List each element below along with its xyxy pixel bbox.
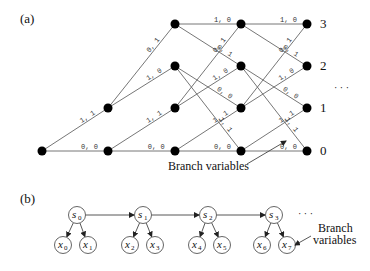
trellis-edge-label: 1, 1 xyxy=(78,109,96,125)
svg-text:x: x xyxy=(191,238,197,250)
trellis-edge-label: 0, 0 xyxy=(215,85,233,101)
trellis-node xyxy=(237,20,246,29)
bayes-net-arrow xyxy=(277,223,283,237)
bayes-net-nodes: s0s1s2s3x0x1x2x3x4x5x6x7 xyxy=(55,207,296,254)
branch-variables-annotation-a: Branch variables xyxy=(168,159,249,173)
branch-variables-annotation-b-line2: variables xyxy=(313,233,357,247)
trellis-node xyxy=(38,147,47,156)
trellis-edge-label: 1, 0 xyxy=(145,67,163,83)
trellis-edge-label: 1, 1 xyxy=(283,116,300,134)
trellis-edge-label: 0, 1 xyxy=(281,43,299,59)
trellis-edge-label: 0, 0 xyxy=(81,143,98,151)
bayes-net-arrow xyxy=(134,223,140,237)
bayes-net-arrow xyxy=(200,223,205,237)
trellis-edge-label: 0, 0 xyxy=(214,143,231,151)
svg-text:0: 0 xyxy=(64,244,68,252)
trellis-node xyxy=(171,62,180,71)
trellis-node xyxy=(237,104,246,113)
trellis-edge xyxy=(175,66,241,151)
branch-node-x0: x0 xyxy=(55,237,72,254)
bayes-net-ellipsis: · · · xyxy=(298,208,313,219)
branch-node-x4: x4 xyxy=(189,237,206,254)
svg-text:x: x xyxy=(149,238,155,250)
annotation-arrow-b xyxy=(295,236,311,245)
state-label-1: 1 xyxy=(320,100,327,115)
svg-text:4: 4 xyxy=(198,244,202,252)
bayes-net-arrow xyxy=(80,223,85,237)
trellis-edge-label: 1, 0 xyxy=(214,16,231,24)
panel-a-label: (a) xyxy=(20,11,34,26)
svg-text:3: 3 xyxy=(275,214,279,222)
trellis-edge xyxy=(175,24,241,66)
trellis-edge-label: 1, 0 xyxy=(277,66,295,82)
branch-node-x7: x7 xyxy=(279,237,296,254)
trellis-edge-label: 1, 0 xyxy=(280,16,297,24)
svg-text:x: x xyxy=(57,238,63,250)
trellis-edge-label: 0, 1 xyxy=(145,36,162,54)
state-label-2: 2 xyxy=(320,58,327,73)
svg-text:1: 1 xyxy=(144,214,148,222)
trellis-edge xyxy=(241,24,307,66)
bayes-net-arrow xyxy=(146,223,152,237)
branch-node-x2: x2 xyxy=(122,237,139,254)
bayes-net-arrow xyxy=(265,223,271,237)
state-label-3: 3 xyxy=(320,16,327,31)
svg-text:2: 2 xyxy=(131,244,135,252)
svg-text:3: 3 xyxy=(156,244,160,252)
bayes-net-arrow xyxy=(67,223,74,237)
trellis-node xyxy=(237,62,246,71)
trellis-edge-label: 0, 0 xyxy=(280,143,297,151)
svg-text:s: s xyxy=(72,208,76,220)
svg-text:1: 1 xyxy=(89,244,93,252)
trellis-node xyxy=(303,20,312,29)
trellis-edge xyxy=(108,24,175,108)
trellis-node xyxy=(303,62,312,71)
branch-node-x3: x3 xyxy=(147,237,164,254)
svg-text:2: 2 xyxy=(209,214,213,222)
trellis-node xyxy=(303,147,312,156)
trellis-node xyxy=(104,104,113,113)
panel-b-label: (b) xyxy=(20,191,35,206)
bayes-net-edges xyxy=(67,215,284,237)
state-node-s0: s0 xyxy=(69,207,86,224)
trellis-node xyxy=(104,147,113,156)
svg-text:s: s xyxy=(269,208,273,220)
svg-text:x: x xyxy=(216,238,222,250)
svg-text:x: x xyxy=(124,238,130,250)
trellis-edge-label: 1, 0 xyxy=(211,66,229,82)
svg-text:5: 5 xyxy=(223,244,227,252)
trellis-edge-label: 1, 1 xyxy=(145,109,163,125)
trellis-edge-label: 0, 0 xyxy=(281,85,299,101)
svg-text:x: x xyxy=(82,238,88,250)
branch-node-x1: x1 xyxy=(80,237,97,254)
trellis-node xyxy=(171,20,180,29)
trellis-nodes xyxy=(38,20,312,156)
annotation-arrow-a xyxy=(247,141,286,164)
trellis-edges xyxy=(42,24,307,151)
trellis-edge xyxy=(108,66,175,108)
svg-text:7: 7 xyxy=(288,244,292,252)
svg-text:x: x xyxy=(281,238,287,250)
state-label-0: 0 xyxy=(320,143,327,158)
svg-text:x: x xyxy=(256,238,262,250)
state-node-s2: s2 xyxy=(200,207,217,224)
svg-text:s: s xyxy=(203,208,207,220)
trellis-node xyxy=(237,147,246,156)
trellis-edge xyxy=(241,66,307,151)
trellis-edge xyxy=(42,108,108,151)
bayes-net-arrow xyxy=(212,223,219,237)
trellis-ellipsis: · · · xyxy=(334,82,349,93)
trellis-edge-label: 0, 0 xyxy=(148,143,165,151)
state-node-s1: s1 xyxy=(135,207,152,224)
trellis-node xyxy=(303,104,312,113)
branch-node-x5: x5 xyxy=(214,237,231,254)
state-node-s3: s3 xyxy=(266,207,283,224)
trellis-edge-label: 1, 1 xyxy=(217,116,234,134)
svg-text:s: s xyxy=(138,208,142,220)
trellis-node xyxy=(171,104,180,113)
trellis-edge xyxy=(108,108,175,151)
branch-node-x6: x6 xyxy=(254,237,271,254)
svg-text:0: 0 xyxy=(78,214,82,222)
trellis-edge-label: 0, 1 xyxy=(215,43,233,59)
trellis-node xyxy=(171,147,180,156)
